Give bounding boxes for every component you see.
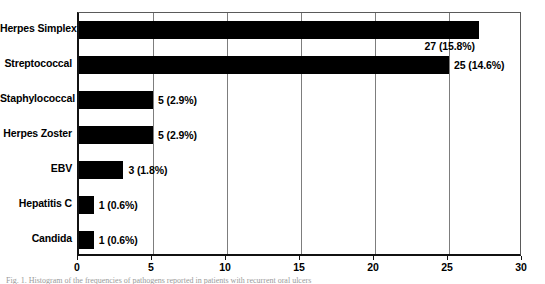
tick-label-20: 20 (367, 261, 379, 273)
bar-streptococcal (79, 56, 449, 74)
bar-row: 27 (15.8%) (79, 21, 523, 39)
y-axis-category-labels: Herpes SimplexStreptococcalStaphylococca… (0, 12, 72, 256)
y-label-hepatitis-c: Hepatitis C (0, 197, 72, 209)
bar-candida (79, 231, 94, 249)
bar-row: 1 (0.6%) (79, 231, 523, 249)
tick-mark-25 (447, 256, 448, 260)
y-label-herpes-simplex: Herpes Simplex (0, 22, 72, 34)
y-label-ebv: EBV (0, 162, 72, 174)
bar-ebv (79, 161, 123, 179)
bar-value-label: 5 (2.9%) (158, 129, 197, 141)
bar-value-label: 25 (14.6%) (454, 59, 504, 71)
tick-mark-5 (151, 256, 152, 260)
bar-row: 5 (2.9%) (79, 126, 523, 144)
bar-staphylococcal (79, 91, 153, 109)
tick-label-30: 30 (515, 261, 527, 273)
y-label-candida: Candida (0, 232, 72, 244)
bar-value-label: 5 (2.9%) (158, 94, 197, 106)
bar-row: 1 (0.6%) (79, 196, 523, 214)
bar-row: 5 (2.9%) (79, 91, 523, 109)
bar-herpes-simplex (79, 21, 479, 39)
x-axis-ticks: 051015202530 (77, 256, 521, 278)
bar-value-label: 27 (15.8%) (425, 40, 475, 52)
bar-herpes-zoster (79, 126, 153, 144)
tick-label-25: 25 (441, 261, 453, 273)
tick-mark-15 (299, 256, 300, 260)
bar-value-label: 3 (1.8%) (128, 164, 167, 176)
tick-label-0: 0 (74, 261, 80, 273)
tick-mark-10 (225, 256, 226, 260)
tick-label-10: 10 (219, 261, 231, 273)
tick-mark-0 (77, 256, 78, 260)
bar-value-label: 1 (0.6%) (99, 199, 138, 211)
y-label-herpes-zoster: Herpes Zoster (0, 127, 72, 139)
figure-container: Herpes SimplexStreptococcalStaphylococca… (0, 0, 545, 284)
bar-hepatitis-c (79, 196, 94, 214)
plot-area: 27 (15.8%)25 (14.6%)5 (2.9%)5 (2.9%)3 (1… (77, 12, 521, 256)
bar-row: 25 (14.6%) (79, 56, 523, 74)
y-label-streptococcal: Streptococcal (0, 57, 72, 69)
tick-label-5: 5 (148, 261, 154, 273)
bar-value-label: 1 (0.6%) (99, 234, 138, 246)
tick-label-15: 15 (293, 261, 305, 273)
bar-row: 3 (1.8%) (79, 161, 523, 179)
figure-caption: Fig. 1. Histogram of the frequencies of … (6, 276, 541, 284)
tick-mark-30 (521, 256, 522, 260)
tick-mark-20 (373, 256, 374, 260)
y-label-staphylococcal: Staphylococcal (0, 92, 72, 104)
